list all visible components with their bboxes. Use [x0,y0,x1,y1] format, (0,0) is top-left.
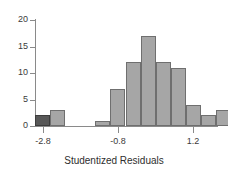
y-tick-mark [30,100,36,101]
x-tick-label: -2.8 [23,136,63,146]
histogram-bar [50,110,65,126]
histogram-chart: 05101520 -2.8-0.81.2 Studentized Residua… [0,0,228,178]
histogram-bar [126,62,141,126]
histogram-bar [186,105,201,126]
x-tick-mark [193,127,194,133]
x-tick-label: -0.8 [98,136,138,146]
y-tick-label-text: 5 [4,95,28,104]
y-tick-label: 0 [0,121,28,130]
x-axis-title: Studentized Residuals [0,155,228,167]
histogram-bar [156,62,171,126]
histogram-bar [95,121,110,126]
y-tick-label-text: 0 [4,121,28,130]
histogram-bar [216,110,228,126]
y-tick-label-text: 20 [4,15,28,24]
y-tick-mark [30,47,36,48]
y-tick-label-text: 10 [4,68,28,77]
histogram-bar-highlighted [35,115,50,126]
histogram-bar [201,115,216,126]
x-axis-line [35,126,218,127]
y-tick-label: 10 [0,68,28,77]
y-tick-mark [30,73,36,74]
histogram-bar [141,36,156,126]
y-tick-label: 15 [0,42,28,51]
y-tick-mark [30,126,36,127]
y-tick-label-text: 15 [4,42,28,51]
y-tick-label: 5 [0,95,28,104]
x-tick-mark [43,127,44,133]
x-tick-mark [118,127,119,133]
histogram-bar [110,89,125,126]
x-tick-label: 1.2 [173,136,213,146]
y-tick-mark [30,20,36,21]
histogram-bar [171,68,186,126]
y-tick-label: 20 [0,15,28,24]
plot-area: 05101520 -2.8-0.81.2 Studentized Residua… [0,0,228,178]
